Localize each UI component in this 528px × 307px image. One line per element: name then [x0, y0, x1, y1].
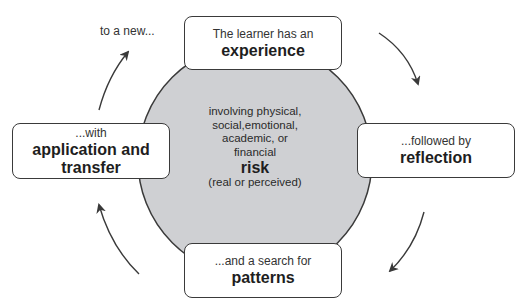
- risk-line-1: involving physical,: [195, 105, 315, 119]
- reflection-title: reflection: [400, 149, 472, 167]
- experience-title: experience: [221, 42, 305, 60]
- node-experience: The learner has an experience: [184, 16, 342, 70]
- node-application: ...with application and transfer: [12, 123, 170, 179]
- loop-label: to a new...: [100, 24, 155, 38]
- node-patterns: ...and a search for patterns: [184, 243, 342, 298]
- arrow-application-to-experience: [99, 52, 128, 110]
- risk-line-3: academic, or: [195, 132, 315, 146]
- node-reflection: ...followed by reflection: [357, 123, 515, 178]
- application-title-line-2: transfer: [61, 159, 121, 177]
- risk-line-2: social,emotional,: [195, 119, 315, 133]
- application-title-line-1: application and: [32, 141, 149, 159]
- arrow-patterns-to-application: [99, 205, 139, 274]
- risk-note: (real or perceived): [195, 176, 315, 190]
- patterns-prefix: ...and a search for: [215, 254, 312, 269]
- risk-emphasis: risk: [195, 159, 315, 176]
- risk-line-4: financial: [195, 146, 315, 160]
- application-prefix: ...with: [75, 126, 106, 141]
- arrow-reflection-to-patterns: [390, 212, 424, 271]
- arrow-experience-to-reflection: [379, 33, 418, 84]
- patterns-title: patterns: [231, 269, 294, 287]
- reflection-prefix: ...followed by: [401, 134, 471, 149]
- risk-description: involving physical, social,emotional, ac…: [195, 105, 315, 190]
- experience-prefix: The learner has an: [213, 27, 314, 42]
